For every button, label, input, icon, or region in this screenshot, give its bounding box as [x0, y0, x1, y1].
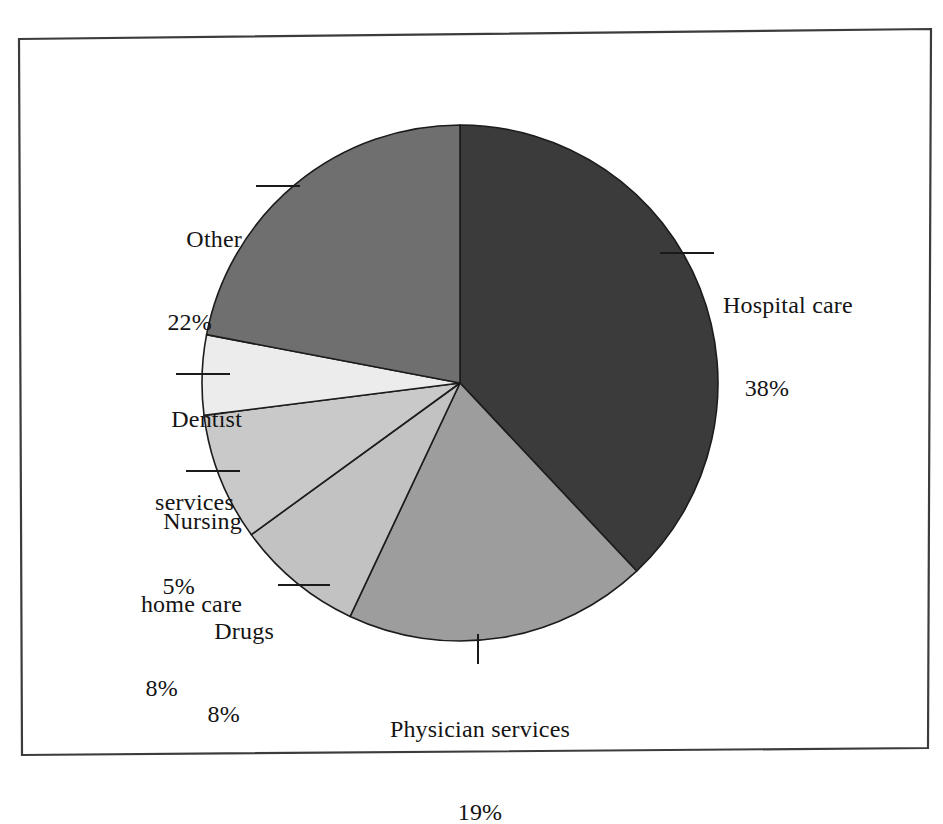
slice-label-physician-services-percent: 19%	[330, 799, 630, 824]
slice-label-physician-services: Physician services 19%	[330, 660, 630, 824]
slice-label-drugs: Drugs 8%	[60, 562, 282, 785]
slice-label-hospital-care: Hospital care 38%	[723, 236, 853, 459]
slice-label-drugs-name: Drugs	[60, 618, 282, 646]
slice-label-nursing-home-care-line1: Nursing	[20, 508, 250, 536]
slice-label-hospital-care-percent: 38%	[723, 375, 853, 403]
slice-label-drugs-percent: 8%	[60, 701, 282, 729]
slice-label-dentist-services-line1: Dentist	[30, 406, 250, 434]
slice-label-other-name: Other	[60, 226, 250, 254]
slice-label-other-percent: 22%	[60, 309, 250, 337]
slice-label-physician-services-name: Physician services	[330, 716, 630, 744]
slice-label-hospital-care-name: Hospital care	[723, 292, 853, 320]
